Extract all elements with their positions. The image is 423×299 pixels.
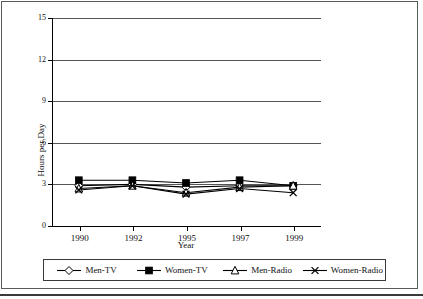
x-axis-tick	[294, 226, 295, 231]
x-axis-tick	[80, 226, 81, 231]
data-point-filled-square	[146, 267, 153, 274]
x-axis-tick	[241, 226, 242, 231]
y-axis-tick-label: 12	[38, 56, 46, 64]
open-triangle-icon	[222, 265, 248, 276]
x-axis-tick	[187, 226, 188, 231]
series-layer	[52, 18, 320, 226]
y-axis-tick-label: 6	[42, 139, 46, 147]
legend-item-women-radio[interactable]: Women-Radio	[300, 265, 385, 276]
legend-item-men-radio[interactable]: Men-Radio	[215, 265, 300, 276]
legend-item-men-tv[interactable]: Men-TV	[44, 265, 129, 276]
filled-square-icon	[136, 265, 162, 276]
chart-legend: Men-TVWomen-TVMen-RadioWomen-Radio	[43, 259, 386, 281]
y-axis-tick-label: 15	[38, 14, 46, 22]
legend-item-label: Men-TV	[85, 266, 117, 275]
legend-item-women-tv[interactable]: Women-TV	[129, 265, 214, 276]
open-diamond-icon	[56, 265, 82, 276]
x-axis-title: Year	[52, 240, 320, 250]
cross-x-icon	[302, 265, 328, 276]
data-point-open-diamond	[65, 266, 73, 274]
y-axis-title: Hours per Day	[36, 123, 46, 176]
legend-item-label: Men-Radio	[251, 266, 292, 275]
legend-item-label: Women-Radio	[331, 266, 383, 275]
y-axis-tick-label: 3	[42, 180, 46, 188]
y-axis-tick-label: 9	[42, 97, 46, 105]
y-axis-tick-label: 0	[42, 222, 46, 230]
x-axis-tick	[133, 226, 134, 231]
page-bottom-rule	[0, 294, 423, 296]
data-point-filled-square	[183, 180, 190, 187]
data-point-filled-square	[75, 177, 82, 184]
y-axis-tick	[48, 226, 53, 227]
chart-figure: Hours per Day 03691215199019921995199719…	[0, 0, 423, 299]
legend-item-label: Women-TV	[165, 266, 208, 275]
